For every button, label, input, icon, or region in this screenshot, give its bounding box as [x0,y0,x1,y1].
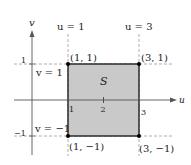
v-axis-arrow-icon [30,30,35,37]
u-axis-arrow-icon [170,98,177,103]
v-tick-neg1: −1 [14,129,26,138]
label-v-equals-neg1: v = −1 [34,123,70,134]
vertex-label-1-neg1: (1, −1) [69,141,104,152]
u-axis-label: u [179,95,185,105]
u-tick-3: 3 [141,108,146,117]
vertex-label-3-1: (3, 1) [141,52,168,63]
label-u-equals-1: u = 1 [57,21,85,32]
label-v-equals-1: v = 1 [35,67,63,78]
vertex-dot [66,134,70,138]
vertex-label-1-1: (1, 1) [70,52,97,63]
label-u-equals-3: u = 3 [125,21,153,32]
v-tick-1: 1 [21,56,26,65]
vertex-label-3-neg1: (3, −1) [139,143,174,154]
vertex-dot [137,134,141,138]
region-label: S [100,75,108,88]
u-tick-1: 1 [69,105,74,114]
uv-region-diagram: v u u = 1 u = 3 v = 1 v = −1 1 −1 1 2 3 … [0,0,191,165]
u-tick-2: 2 [101,105,106,114]
v-axis-label: v [29,17,35,28]
